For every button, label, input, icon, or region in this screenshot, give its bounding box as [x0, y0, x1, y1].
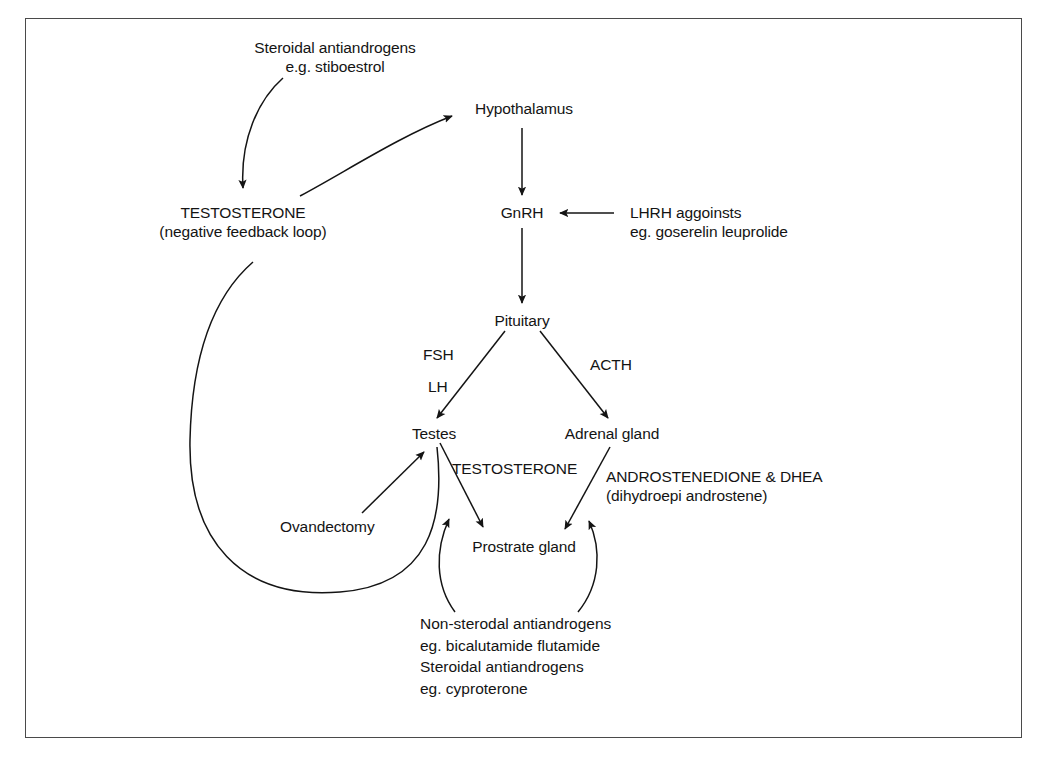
- edge-pituitary-to-adrenal: [540, 331, 608, 418]
- node-ovandectomy: Ovandectomy: [280, 517, 375, 536]
- steroidal-antiandrogens-line2: e.g. stiboestrol: [254, 57, 415, 76]
- node-steroidal-antiandrogens-top: Steroidal antiandrogens e.g. stiboestrol: [254, 38, 415, 76]
- antiandrogens-bottom-line3: Steroidal antiandrogens: [420, 656, 611, 678]
- node-adrenal-gland: Adrenal gland: [565, 424, 659, 443]
- node-androstenedione: ANDROSTENEDIONE & DHEA (dihydroepi andro…: [606, 467, 823, 505]
- node-hypothalamus: Hypothalamus: [475, 99, 573, 118]
- lhrh-agonists-line1: LHRH aggoinsts: [630, 203, 788, 222]
- testosterone-feedback-line1: TESTOSTERONE: [159, 203, 326, 222]
- steroidal-antiandrogens-line1: Steroidal antiandrogens: [254, 38, 415, 57]
- edge-steroidal-to-testosterone: [243, 78, 283, 188]
- testosterone-feedback-line2: (negative feedback loop): [159, 222, 326, 241]
- node-prostate-gland: Prostrate gland: [472, 537, 576, 556]
- edge-testosterone-to-hypothalamus: [300, 116, 452, 196]
- edge-testes-feedback-loop: [190, 262, 439, 593]
- label-lh: LH: [428, 377, 448, 396]
- label-fsh: FSH: [423, 345, 454, 364]
- androstenedione-line1: ANDROSTENEDIONE & DHEA: [606, 467, 823, 486]
- label-acth: ACTH: [590, 355, 632, 374]
- antiandrogens-bottom-line4: eg. cyproterone: [420, 678, 611, 700]
- label-testosterone-pathway: TESTOSTERONE: [452, 459, 577, 478]
- antiandrogens-bottom-line1: Non-sterodal antiandrogens: [420, 613, 611, 635]
- node-antiandrogens-bottom: Non-sterodal antiandrogens eg. bicalutam…: [420, 613, 611, 699]
- figure-caption-clipped: [30, 752, 1010, 764]
- lhrh-agonists-line2: eg. goserelin leuprolide: [630, 222, 788, 241]
- node-gnrh: GnRH: [501, 203, 544, 222]
- edge-testes-to-prostate: [440, 443, 483, 527]
- node-testes: Testes: [412, 424, 456, 443]
- edge-antiandrogens-to-androstenedione-path: [578, 521, 597, 612]
- node-lhrh-agonists: LHRH aggoinsts eg. goserelin leuprolide: [630, 203, 788, 241]
- edge-antiandrogens-to-testosterone-path: [439, 519, 455, 612]
- node-testosterone-feedback: TESTOSTERONE (negative feedback loop): [159, 203, 326, 241]
- node-pituitary: Pituitary: [494, 311, 549, 330]
- edge-ovandectomy-to-testes: [362, 452, 424, 513]
- androstenedione-line2: (dihydroepi androstene): [606, 486, 823, 505]
- antiandrogens-bottom-line2: eg. bicalutamide flutamide: [420, 635, 611, 657]
